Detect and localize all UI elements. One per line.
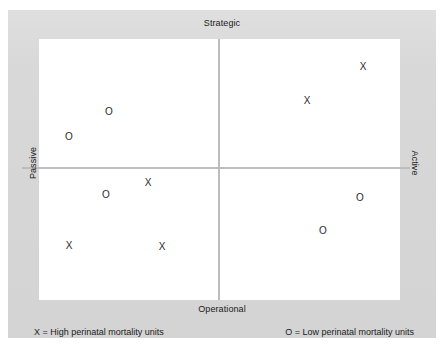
- axis-label-active: Active: [409, 150, 419, 175]
- data-point-marker: O: [65, 132, 73, 142]
- data-point-marker: X: [66, 241, 73, 251]
- data-point-marker: O: [356, 193, 364, 203]
- vertical-axis-line: [218, 39, 220, 300]
- horizontal-axis-line: [22, 167, 410, 169]
- legend-entry-low-mortality: O = Low perinatal mortality units: [285, 327, 414, 337]
- data-point-marker: O: [319, 226, 327, 236]
- data-point-marker: X: [145, 178, 152, 188]
- data-point-marker: O: [102, 190, 110, 200]
- axis-label-operational: Operational: [8, 304, 436, 314]
- data-point-marker: X: [304, 96, 311, 106]
- data-point-marker: O: [105, 107, 113, 117]
- legend-entry-high-mortality: X = High perinatal mortality units: [34, 327, 164, 337]
- data-point-marker: X: [360, 62, 367, 72]
- data-point-marker: X: [159, 242, 166, 252]
- axis-label-passive: Passive: [28, 147, 38, 179]
- axis-label-strategic: Strategic: [8, 18, 436, 28]
- figure-panel: Strategic Operational Passive Active XXX…: [8, 10, 436, 338]
